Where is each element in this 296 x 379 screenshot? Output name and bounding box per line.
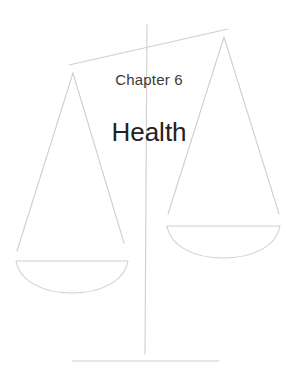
scale-beam: [69, 29, 228, 65]
left-string-outer: [17, 73, 73, 251]
chapter-title: Health: [0, 117, 296, 147]
chapter-number-label: Chapter 6: [0, 71, 296, 89]
balance-scale-icon: [0, 0, 296, 379]
chapter-title-page: Chapter 6 Health: [0, 0, 296, 379]
right-pan: [167, 226, 280, 258]
left-string-inner: [73, 73, 124, 243]
left-pan: [16, 261, 128, 293]
